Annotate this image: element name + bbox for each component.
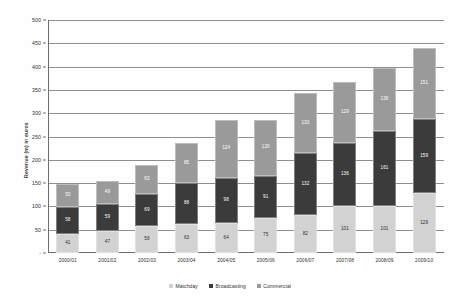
y-axis-tick-mark [43,159,46,160]
legend-item-matchday[interactable]: Matchday [169,283,198,289]
stacked-bar[interactable]: 636958 [135,165,158,254]
bar-segment-commercial[interactable]: 50 [56,184,79,207]
legend-item-broadcasting[interactable]: Broadcasting [209,283,246,289]
bar-value-label: 82 [303,232,308,237]
y-axis-tick-mark [43,20,46,21]
y-axis-tick-labels: -50100150200250300350400450500 [0,20,46,253]
stacked-bar[interactable]: 1209175 [254,120,277,253]
bar-value-label: 59 [105,215,110,220]
stacked-bar[interactable]: 136161101 [373,68,396,253]
bar-segment-broadcasting[interactable]: 91 [254,176,277,218]
bar-segment-matchday[interactable]: 47 [96,231,119,253]
y-axis-tick-mark [43,43,46,44]
bar-segment-broadcasting[interactable]: 136 [333,143,356,206]
y-axis-tick-mark [43,136,46,137]
bar-segment-broadcasting[interactable]: 88 [175,183,198,224]
stacked-bar[interactable]: 858863 [175,143,198,253]
bar-slot: 505841 [51,20,85,253]
bar-value-label: 120 [262,145,270,150]
y-axis-tick-label: 350 [32,87,41,93]
bar-value-label: 58 [144,237,149,242]
bar-value-label: 49 [105,190,110,195]
bar-value-label: 159 [420,154,428,159]
bar-value-label: 101 [341,227,349,232]
x-axis-tick-label: 2007/08 [328,253,362,263]
bar-group: 5058414959476369588588631249864120917513… [48,20,444,253]
bar-segment-commercial[interactable]: 124 [215,120,238,178]
bar-value-label: 64 [224,236,229,241]
y-axis-tick-label: 450 [32,40,41,46]
bar-segment-broadcasting[interactable]: 59 [96,204,119,231]
legend-label: Commercial [263,283,291,289]
bar-segment-broadcasting[interactable]: 98 [215,178,238,224]
bar-value-label: 88 [184,201,189,206]
y-axis-tick-label: 100 [32,203,41,209]
bar-segment-broadcasting[interactable]: 161 [373,131,396,206]
legend-swatch-broadcasting-icon [209,284,213,288]
bar-segment-matchday[interactable]: 129 [413,193,436,253]
legend-item-commercial[interactable]: Commercial [257,283,291,289]
bar-value-label: 63 [184,236,189,241]
legend-swatch-commercial-icon [257,284,261,288]
y-axis-tick-mark [43,113,46,114]
stacked-bar[interactable]: 151159129 [413,48,436,253]
stacked-bar[interactable]: 13013282 [294,93,317,253]
bar-segment-matchday[interactable]: 101 [373,206,396,253]
bar-segment-matchday[interactable]: 64 [215,223,238,253]
x-axis-tick-label: 2002/03 [130,253,164,263]
bar-segment-broadcasting[interactable]: 69 [135,194,158,226]
x-axis-tick-label: 2001/02 [90,253,124,263]
bar-segment-commercial[interactable]: 129 [333,82,356,142]
bar-segment-commercial[interactable]: 85 [175,143,198,183]
bar-segment-commercial[interactable]: 136 [373,68,396,131]
y-axis-tick-label: 250 [32,134,41,140]
revenue-stacked-bar-chart: Revenue (m) in euros -501001502002503003… [0,0,460,301]
bar-segment-broadcasting[interactable]: 159 [413,119,436,193]
stacked-bar[interactable]: 505841 [56,184,79,253]
bar-segment-matchday[interactable]: 82 [294,215,317,253]
bar-slot: 13013282 [288,20,322,253]
bar-value-label: 41 [65,241,70,246]
stacked-bar[interactable]: 1249864 [215,120,238,253]
y-axis-tick-label: - [39,250,41,256]
bar-segment-matchday[interactable]: 101 [333,206,356,253]
bar-slot: 1249864 [209,20,243,253]
bar-segment-broadcasting[interactable]: 58 [56,207,79,234]
bar-value-label: 75 [263,233,268,238]
bar-value-label: 91 [263,195,268,200]
bar-slot: 636958 [130,20,164,253]
bar-segment-commercial[interactable]: 151 [413,48,436,118]
y-axis-tick-label: 500 [32,17,41,23]
legend-label: Broadcasting [215,283,245,289]
y-axis-tick-label: 50 [35,227,41,233]
bar-value-label: 161 [381,166,389,171]
bar-value-label: 98 [224,198,229,203]
bar-slot: 136161101 [368,20,402,253]
x-axis-tick-label: 2006/07 [288,253,322,263]
stacked-bar[interactable]: 495947 [96,181,119,253]
bar-segment-commercial[interactable]: 63 [135,165,158,194]
bar-slot: 129136101 [328,20,362,253]
bar-value-label: 85 [184,161,189,166]
bar-segment-matchday[interactable]: 63 [175,224,198,253]
x-axis-tick-labels: 2000/012001/022002/032003/042004/052005/… [48,253,444,267]
bar-slot: 495947 [90,20,124,253]
bar-segment-commercial[interactable]: 120 [254,120,277,176]
y-axis-tick-label: 150 [32,180,41,186]
bar-value-label: 63 [144,177,149,182]
bar-value-label: 136 [381,97,389,102]
legend-label: Matchday [175,283,197,289]
bar-segment-matchday[interactable]: 58 [135,226,158,253]
x-axis-tick-label: 2000/01 [51,253,85,263]
bar-segment-commercial[interactable]: 130 [294,93,317,154]
stacked-bar[interactable]: 129136101 [333,82,356,253]
bar-segment-matchday[interactable]: 41 [56,234,79,253]
bar-segment-broadcasting[interactable]: 132 [294,153,317,215]
bar-segment-matchday[interactable]: 75 [254,218,277,253]
bar-segment-commercial[interactable]: 49 [96,181,119,204]
bar-value-label: 101 [381,227,389,232]
x-axis-tick-label: 2008/09 [368,253,402,263]
bar-value-label: 69 [144,208,149,213]
bar-value-label: 50 [65,193,70,198]
x-axis-tick-label: 2009/10 [407,253,441,263]
